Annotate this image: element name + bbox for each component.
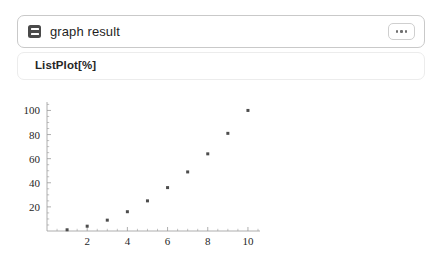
data-point <box>206 152 209 155</box>
input-expression-card[interactable]: ListPlot[%] <box>17 52 425 80</box>
data-point <box>126 210 129 213</box>
y-tick-label: 20 <box>29 201 41 213</box>
more-options-button[interactable] <box>388 23 415 40</box>
graph-result-header-card: graph result <box>17 15 425 48</box>
x-tick-label: 10 <box>242 235 254 247</box>
x-tick-label: 2 <box>84 235 90 247</box>
data-point <box>166 186 169 189</box>
y-tick-label: 80 <box>29 129 41 141</box>
y-tick-label: 100 <box>24 104 41 116</box>
data-point <box>66 228 69 231</box>
y-tick-label: 40 <box>29 177 41 189</box>
dot-1-icon <box>396 30 398 32</box>
listplot-chart: 20406080100 246810 <box>0 86 440 263</box>
document-lines-icon <box>28 25 41 38</box>
page-title: graph result <box>50 25 388 38</box>
x-tick-label: 6 <box>165 235 171 247</box>
dot-2-icon <box>400 30 402 32</box>
data-point <box>86 225 89 228</box>
x-axis: 246810 <box>47 227 260 247</box>
x-tick-label: 8 <box>205 235 211 247</box>
data-point <box>246 109 249 112</box>
x-tick-label: 4 <box>125 235 131 247</box>
dot-3-icon <box>405 30 407 32</box>
chart-svg: 20406080100 246810 <box>0 86 440 263</box>
data-point <box>106 219 109 222</box>
input-expression-text: ListPlot[%] <box>35 60 96 72</box>
data-point <box>146 199 149 202</box>
data-points <box>66 109 250 231</box>
y-axis: 20406080100 <box>24 102 52 231</box>
y-tick-label: 60 <box>29 153 41 165</box>
data-point <box>226 132 229 135</box>
data-point <box>186 170 189 173</box>
